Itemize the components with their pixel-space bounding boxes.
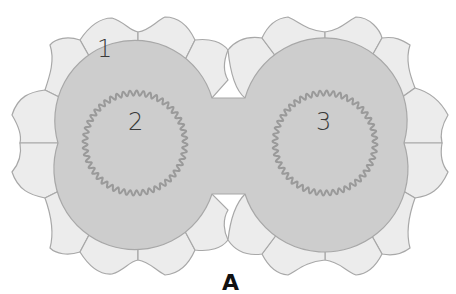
label-left-core: 2 [128,108,143,136]
label-right-core: 3 [316,108,331,136]
label-outer-cell: 1 [97,35,112,63]
panel-label: A [222,270,239,294]
rosette-diagram: 1 2 3 A [0,0,456,294]
